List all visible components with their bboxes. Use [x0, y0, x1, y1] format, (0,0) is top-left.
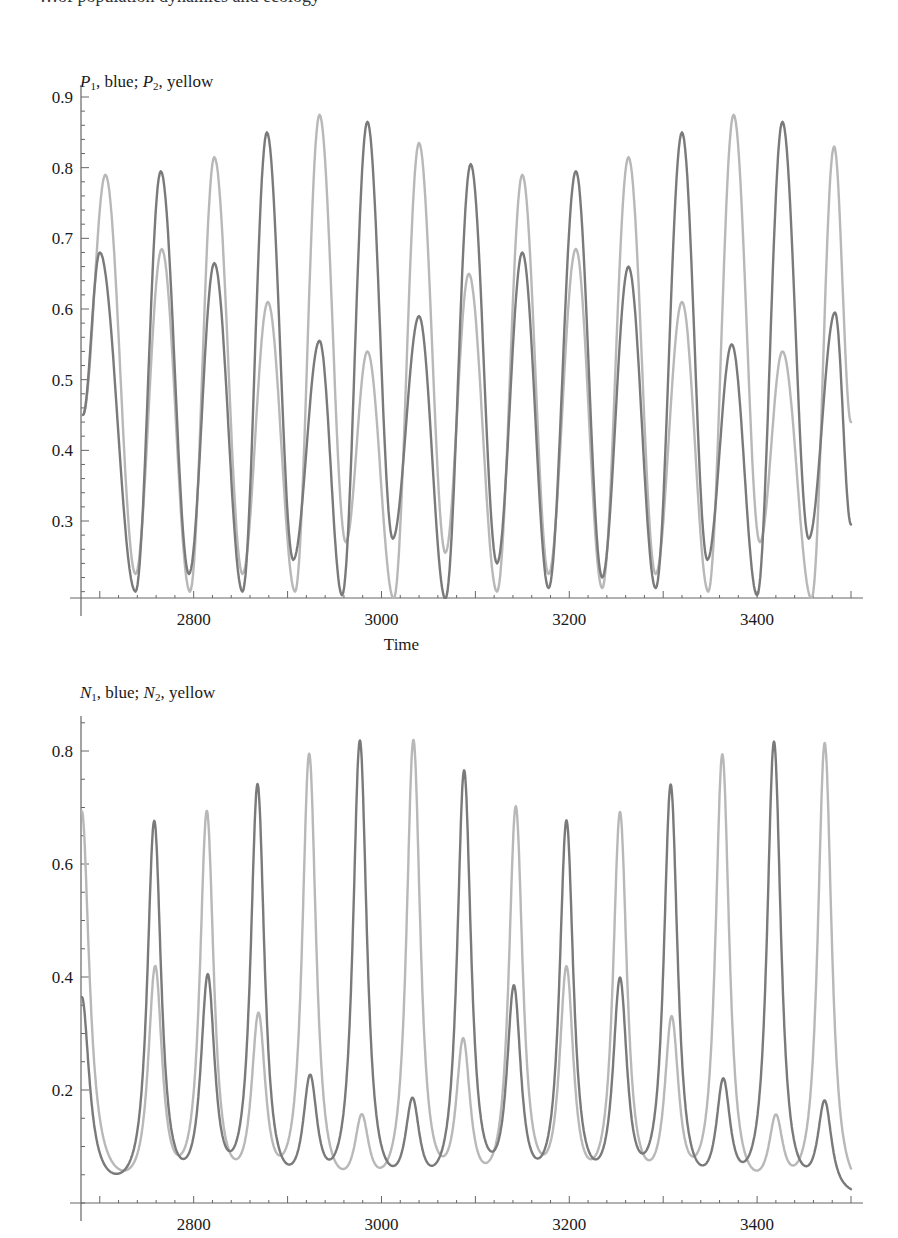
y-tick-label: 0.4	[52, 968, 74, 987]
n-chart-plot: 28003000320034000.20.40.60.8	[0, 0, 898, 1238]
y-tick-label: 0.6	[52, 855, 73, 874]
y-tick-label: 0.2	[52, 1081, 73, 1100]
y-tick-label: 0.8	[52, 742, 73, 761]
series-group	[82, 740, 851, 1189]
x-tick-label: 3200	[552, 1215, 586, 1234]
x-tick-label: 3000	[364, 1215, 398, 1234]
series-1-line	[82, 740, 851, 1189]
x-tick-label: 2800	[177, 1215, 211, 1234]
x-tick-label: 3400	[740, 1215, 774, 1234]
